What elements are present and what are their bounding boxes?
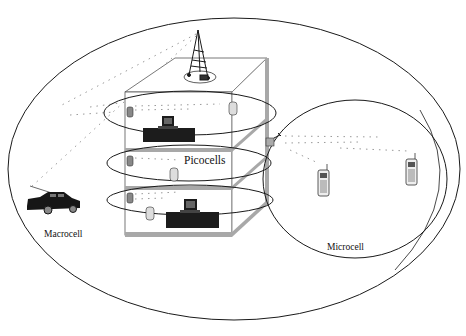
- macrocell-label: Macrocell: [44, 229, 83, 239]
- building-pillar: [265, 58, 269, 205]
- microcell-label: Microcell: [327, 242, 364, 252]
- cellular-hierarchy-diagram: Picocells Macrocell Microcell: [0, 0, 466, 336]
- picocells-label: Picocells: [184, 154, 226, 166]
- microcell-boundary: [263, 100, 447, 258]
- macrocell-rim-arc: [395, 110, 440, 270]
- mobile-phone-icon: [318, 164, 329, 196]
- diagram-graphics: [0, 0, 466, 336]
- mobile-phone-icon: [406, 153, 417, 185]
- microcell-signal-paths: [285, 136, 408, 163]
- floor-slab-base: [125, 232, 232, 237]
- car-icon: [27, 186, 80, 214]
